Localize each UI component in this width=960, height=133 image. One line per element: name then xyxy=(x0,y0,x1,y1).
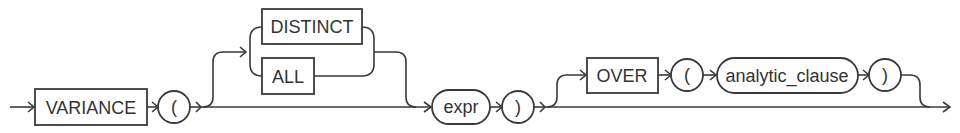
variance-label: VARIANCE xyxy=(46,98,137,118)
variance-keyword: VARIANCE xyxy=(35,89,147,125)
connector-paren-analytic xyxy=(703,70,716,80)
over-open-paren-terminal: ( xyxy=(671,59,703,91)
over-close-paren-label: ) xyxy=(882,65,888,85)
connector-analytic-paren xyxy=(858,70,869,80)
analytic-clause-nonterminal: analytic_clause xyxy=(717,58,858,93)
connector-expr-paren xyxy=(490,102,502,112)
connector-variance-paren xyxy=(147,102,158,112)
expr-nonterminal: expr xyxy=(432,90,490,124)
close-paren-label: ) xyxy=(515,97,521,117)
connector-paren-main xyxy=(190,102,201,112)
entry-arrow xyxy=(10,102,34,112)
all-option: ALL xyxy=(262,58,314,94)
over-keyword: OVER xyxy=(587,58,658,93)
analytic-clause-label: analytic_clause xyxy=(725,66,848,87)
distinct-label: DISTINCT xyxy=(271,17,354,37)
open-paren-terminal: ( xyxy=(158,91,190,123)
branch-down-over xyxy=(901,75,930,107)
over-close-paren-terminal: ) xyxy=(869,59,901,91)
over-open-paren-label: ( xyxy=(684,65,690,85)
over-label: OVER xyxy=(596,66,647,86)
close-paren-terminal: ) xyxy=(502,91,534,123)
branch-down-options xyxy=(374,52,416,107)
all-label: ALL xyxy=(272,67,304,87)
expr-label: expr xyxy=(443,97,478,117)
open-paren-label: ( xyxy=(171,97,177,117)
connector-paren-over xyxy=(534,102,545,112)
branch-up-options xyxy=(203,52,246,107)
connector-over-paren xyxy=(658,70,671,80)
options-fork-left xyxy=(250,27,262,76)
distinct-option: DISTINCT xyxy=(262,9,362,44)
syntax-diagram: VARIANCE ( DISTINCT ALL expr xyxy=(0,0,960,133)
